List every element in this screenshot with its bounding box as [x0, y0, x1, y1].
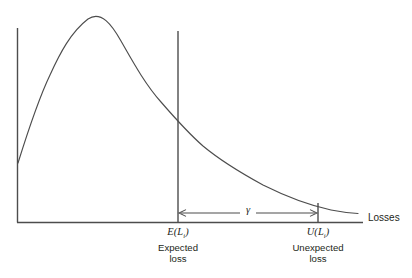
x-axis-title: Losses: [368, 212, 400, 223]
unexpected-loss-label: U(Li) Unexpected loss: [268, 226, 368, 265]
expected-loss-symbol: E(Li): [133, 226, 223, 242]
expected-loss-caption-line1: Expected: [133, 242, 223, 254]
loss-distribution-figure: γ E(Li) Expected loss U(Li) Unexpected l…: [0, 0, 412, 278]
expected-loss-label: E(Li) Expected loss: [133, 226, 223, 265]
loss-distribution-curve: [18, 16, 358, 213]
unexpected-loss-symbol: U(Li): [268, 226, 368, 242]
unexpected-loss-caption-line1: Unexpected: [268, 242, 368, 254]
unexpected-loss-caption-line2: loss: [268, 253, 368, 265]
gamma-label: γ: [240, 204, 256, 216]
expected-loss-caption-line2: loss: [133, 253, 223, 265]
